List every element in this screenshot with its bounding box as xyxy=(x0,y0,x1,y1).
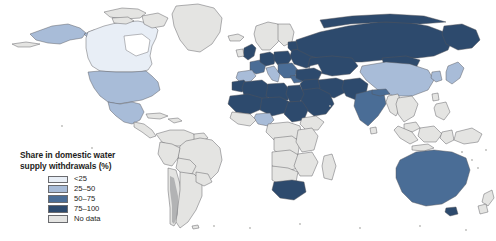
country-thailand-indochina xyxy=(396,96,418,122)
country-sulawesi xyxy=(440,130,454,144)
country-madagascar xyxy=(322,154,336,180)
country-falklands xyxy=(192,225,199,229)
country-iceland xyxy=(228,34,244,41)
country-kenya-tanzania xyxy=(296,128,318,152)
island-dot xyxy=(419,225,421,227)
country-alaska xyxy=(30,24,86,44)
island-dot xyxy=(471,159,473,161)
island-dot xyxy=(477,167,479,169)
legend-swatch-no-data xyxy=(48,215,68,223)
country-south-africa xyxy=(272,180,306,200)
country-egypt xyxy=(286,85,304,102)
legend-swatch-75-100 xyxy=(48,205,68,213)
country-greenland xyxy=(172,4,222,52)
country-united-states xyxy=(88,71,160,104)
island-dot xyxy=(91,147,93,149)
legend-row-lt25[interactable]: <25 xyxy=(48,175,190,184)
island-dot xyxy=(299,223,301,225)
country-west-africa-coast xyxy=(230,112,256,126)
country-tasmania xyxy=(445,207,458,216)
country-borneo xyxy=(418,126,442,142)
country-united-kingdom xyxy=(243,44,256,60)
legend-swatch-25-50 xyxy=(48,185,68,193)
country-taiwan xyxy=(432,93,439,101)
legend-label-lt25: <25 xyxy=(74,175,87,184)
country-poland-czech xyxy=(274,51,292,65)
country-new-zealand-south xyxy=(478,204,488,214)
country-cuba xyxy=(146,113,168,119)
country-aleutian-islands xyxy=(12,42,40,47)
country-russia xyxy=(296,22,452,62)
country-spain-portugal xyxy=(236,70,256,82)
legend-title-line1: Share in domestic water xyxy=(20,150,190,161)
legend-label-no-data: No data xyxy=(74,215,101,224)
island-dot xyxy=(465,229,467,231)
legend-swatch-50-75 xyxy=(48,195,68,203)
legend-row-75-100[interactable]: 75–100 xyxy=(48,205,190,214)
country-hispaniola xyxy=(168,118,182,123)
country-japan xyxy=(446,62,464,84)
legend-row-50-75[interactable]: 50–75 xyxy=(48,195,190,204)
legend-row-no-data[interactable]: No data xyxy=(48,215,190,224)
island-dot xyxy=(329,105,331,107)
island-dot xyxy=(461,151,463,153)
country-java xyxy=(412,144,434,151)
map-legend: Share in domestic water supply withdrawa… xyxy=(20,150,190,225)
country-new-zealand xyxy=(482,190,494,206)
country-mauritania-mali xyxy=(228,94,264,114)
legend-swatch-lt25 xyxy=(48,176,68,184)
country-australia xyxy=(396,150,470,206)
country-ireland xyxy=(236,49,244,57)
legend-items: <25 25–50 50–75 75–100 No data xyxy=(20,175,190,224)
island-dot xyxy=(213,225,215,227)
legend-label-25-50: 25–50 xyxy=(74,185,95,194)
legend-row-25-50[interactable]: 25–50 xyxy=(48,185,190,194)
legend-title-line2: supply withdrawals (%) xyxy=(20,161,190,172)
world-choropleth-map: Share in domestic water supply withdrawa… xyxy=(0,0,496,241)
island-dot xyxy=(61,125,63,127)
legend-label-50-75: 50–75 xyxy=(74,195,95,204)
country-papua-new-guinea xyxy=(454,128,482,144)
legend-label-75-100: 75–100 xyxy=(74,205,99,214)
country-mexico xyxy=(108,102,144,124)
island-dot xyxy=(359,227,361,229)
country-central-america xyxy=(134,122,156,138)
island-dot xyxy=(249,227,251,229)
country-sri-lanka xyxy=(370,127,377,134)
island-dot xyxy=(485,149,487,151)
country-philippines xyxy=(434,102,450,120)
